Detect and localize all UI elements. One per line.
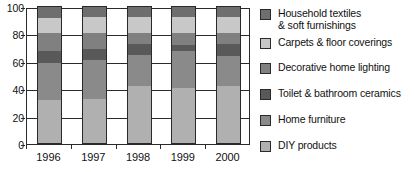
bar-segment bbox=[127, 85, 152, 144]
legend-item[interactable]: Household textiles & soft furnishings bbox=[260, 8, 414, 31]
bar-segment bbox=[216, 43, 241, 56]
legend-item[interactable]: Carpets & floor coverings bbox=[260, 37, 414, 49]
legend-swatch-icon bbox=[260, 9, 271, 20]
bar-group bbox=[127, 9, 152, 144]
bar-group bbox=[171, 9, 196, 144]
bar-segment bbox=[37, 6, 62, 18]
plot-area bbox=[26, 8, 250, 145]
legend-swatch-icon bbox=[260, 63, 271, 74]
legend-item[interactable]: Home furniture bbox=[260, 114, 414, 126]
legend-label: Household textiles & soft furnishings bbox=[278, 8, 361, 31]
bar-stack bbox=[171, 7, 196, 144]
legend-item[interactable]: DIY products bbox=[260, 140, 414, 152]
y-tick-mark bbox=[21, 90, 25, 91]
bar-segment bbox=[127, 43, 152, 55]
bar-segment bbox=[82, 48, 107, 60]
bar-segment bbox=[216, 55, 241, 86]
legend-swatch-icon bbox=[260, 38, 271, 49]
bar-segment bbox=[37, 32, 62, 51]
x-tick-label: 2000 bbox=[208, 151, 248, 164]
bar-stack bbox=[82, 7, 107, 144]
x-tick-label: 1997 bbox=[73, 151, 113, 164]
bar-group bbox=[37, 9, 62, 144]
legend-label: Decorative home lighting bbox=[278, 62, 390, 74]
y-tick-mark bbox=[21, 8, 25, 9]
bar-segment bbox=[216, 32, 241, 44]
x-tick-mark bbox=[116, 145, 117, 149]
y-tick-mark bbox=[21, 118, 25, 119]
bar-segment bbox=[37, 62, 62, 100]
bar-segment bbox=[82, 59, 107, 98]
legend-item[interactable]: Decorative home lighting bbox=[260, 62, 414, 74]
legend-item[interactable]: Toilet & bathroom ceramics bbox=[260, 88, 414, 100]
bar-segment bbox=[127, 6, 152, 17]
bar-segment bbox=[171, 87, 196, 144]
x-tick-label: 1998 bbox=[118, 151, 158, 164]
bar-segment bbox=[171, 32, 196, 45]
bar-segment bbox=[171, 16, 196, 33]
legend-swatch-icon bbox=[260, 89, 271, 100]
x-tick-mark bbox=[205, 145, 206, 149]
bar-segment bbox=[216, 6, 241, 17]
x-tick-mark bbox=[160, 145, 161, 149]
y-tick-mark bbox=[21, 35, 25, 36]
bar-group bbox=[216, 9, 241, 144]
y-tick-mark bbox=[21, 63, 25, 64]
x-tick-mark bbox=[26, 145, 27, 149]
bar-segment bbox=[37, 17, 62, 33]
x-tick-label: 1996 bbox=[28, 151, 68, 164]
legend-swatch-icon bbox=[260, 115, 271, 126]
bar-segment bbox=[216, 85, 241, 144]
bar-stack bbox=[127, 7, 152, 144]
legend-label: Home furniture bbox=[278, 114, 345, 126]
bar-segment bbox=[171, 6, 196, 17]
bars-layer bbox=[27, 9, 249, 144]
legend-label: DIY products bbox=[278, 140, 337, 152]
bar-segment bbox=[82, 16, 107, 33]
bar-segment bbox=[37, 99, 62, 144]
bar-segment bbox=[127, 54, 152, 87]
bar-segment bbox=[127, 32, 152, 44]
x-tick-mark bbox=[71, 145, 72, 149]
y-axis: 020406080100 bbox=[0, 0, 24, 172]
bar-segment bbox=[82, 32, 107, 49]
x-axis: 19961997199819992000 bbox=[26, 145, 250, 172]
bar-stack bbox=[216, 7, 241, 144]
plot-wrapper: 020406080100 19961997199819992000 bbox=[0, 0, 258, 172]
legend-label: Toilet & bathroom ceramics bbox=[278, 88, 401, 100]
x-tick-label: 1999 bbox=[163, 151, 203, 164]
bar-segment bbox=[127, 16, 152, 33]
legend-label: Carpets & floor coverings bbox=[278, 37, 392, 49]
legend-swatch-icon bbox=[260, 141, 271, 152]
bar-segment bbox=[216, 16, 241, 33]
bar-segment bbox=[37, 50, 62, 63]
y-tick-mark bbox=[21, 145, 25, 146]
bar-group bbox=[82, 9, 107, 144]
bar-segment bbox=[82, 6, 107, 17]
bar-segment bbox=[171, 50, 196, 88]
bar-stack bbox=[37, 7, 62, 144]
bar-segment bbox=[82, 98, 107, 144]
chart-legend: Household textiles & soft furnishingsCar… bbox=[260, 4, 414, 170]
stacked-bar-chart: 020406080100 19961997199819992000 Househ… bbox=[0, 0, 414, 172]
